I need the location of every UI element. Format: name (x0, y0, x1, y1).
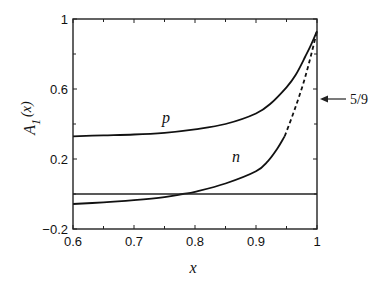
chart-canvas: 0.60.70.80.91−0.20.20.61 p n x A1(x) 5/9 (0, 0, 379, 285)
axis-ticks (73, 19, 317, 229)
y-axis-label-main: A (21, 125, 38, 136)
y-axis-label: A1(x) (19, 101, 43, 136)
svg-text:A1(x): A1(x) (19, 101, 43, 136)
y-tick-label: 1 (61, 12, 68, 27)
curve-p-solid (73, 31, 317, 136)
plot-frame (73, 19, 317, 229)
x-axis-label: x (188, 259, 196, 276)
x-tick-label: 1 (313, 234, 320, 249)
y-axis-label-arg: (x) (19, 101, 35, 117)
y-tick-label: −0.2 (42, 222, 68, 237)
x-tick-label: 0.8 (186, 234, 204, 249)
curves-layer (73, 31, 317, 204)
series-label-n: n (232, 148, 240, 165)
y-tick-label: 0.2 (50, 152, 68, 167)
y-axis-label-subscript: 1 (29, 119, 43, 125)
x-tick-label: 0.9 (247, 234, 265, 249)
annotation-label: 5/9 (350, 92, 368, 107)
annotation-five-ninths: 5/9 (320, 92, 368, 107)
x-tick-label: 0.7 (125, 234, 143, 249)
y-tick-label: 0.6 (50, 82, 68, 97)
series-label-p: p (161, 109, 170, 127)
arrow-head-icon (320, 96, 328, 103)
